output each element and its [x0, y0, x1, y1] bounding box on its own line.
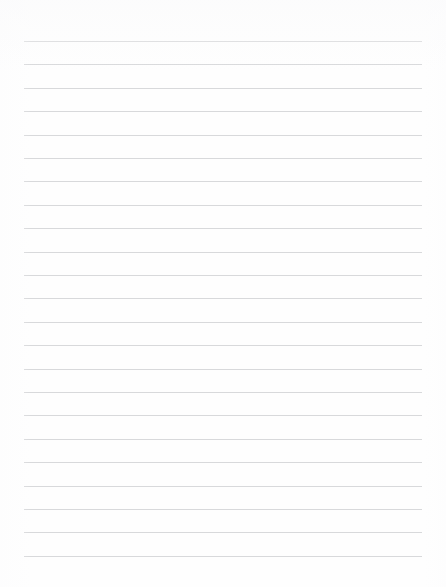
document-page [0, 0, 446, 587]
writing-area[interactable] [24, 24, 422, 564]
